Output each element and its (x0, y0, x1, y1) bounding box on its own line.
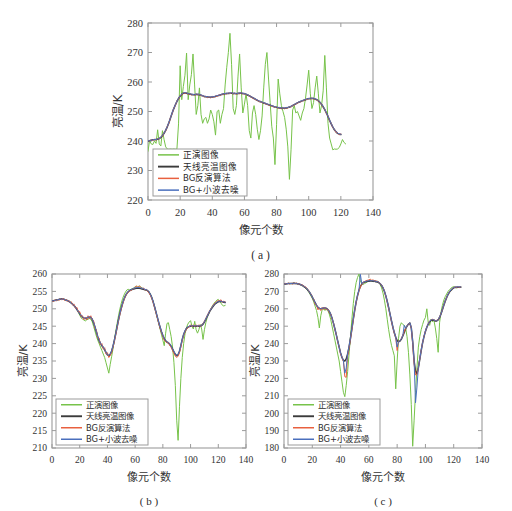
legend-label-bgwavelet: BG+小波去噪 (86, 434, 138, 444)
x-tick-label: 60 (130, 454, 140, 465)
y-tick-label: 180 (265, 442, 280, 453)
legend-label-bgwavelet: BG+小波去噪 (183, 184, 239, 195)
x-tick-label: 80 (271, 207, 282, 218)
y-tick-label: 230 (265, 355, 280, 366)
panel-caption: ( c ) (374, 495, 392, 508)
legend: 正演图像天线亮温图像BG反演算法BG+小波去噪 (153, 149, 247, 196)
y-axis-title: 亮温/K (111, 94, 125, 128)
chart-c: 0204060801001201401801902002102202302402… (248, 266, 498, 508)
legend-label-bg: BG反演算法 (183, 172, 231, 183)
x-tick-label: 40 (336, 454, 346, 465)
x-axis-title: 像元个数 (239, 223, 284, 237)
y-tick-label: 225 (33, 390, 48, 401)
y-tick-label: 250 (33, 303, 48, 314)
x-tick-label: 40 (207, 207, 218, 218)
x-tick-label: 20 (75, 454, 85, 465)
subplot-c: 0204060801001201401801902002102202302402… (248, 266, 498, 508)
x-tick-label: 140 (475, 454, 490, 465)
y-tick-label: 260 (33, 268, 48, 279)
chart-a: 020406080100120140220230240250260270280像… (108, 14, 400, 262)
series-line-bgwavelet (52, 288, 225, 356)
legend: 正演图像天线亮温图像BG反演算法BG+小波去噪 (288, 399, 380, 445)
x-tick-label: 40 (103, 454, 113, 465)
x-tick-label: 80 (158, 454, 168, 465)
legend-label-antenna: 天线亮温图像 (183, 161, 237, 172)
y-tick-label: 235 (33, 355, 48, 366)
series-line-antenna (52, 288, 225, 356)
legend: 正演图像天线亮温图像BG反演算法BG+小波去噪 (56, 399, 148, 445)
series-line-antenna (148, 93, 341, 141)
y-tick-label: 270 (265, 286, 280, 297)
x-tick-label: 20 (307, 454, 317, 465)
y-tick-label: 255 (33, 286, 48, 297)
y-tick-label: 250 (127, 106, 143, 117)
x-tick-label: 20 (175, 207, 186, 218)
panel-caption: ( a ) (251, 249, 270, 262)
x-axis-title: 像元个数 (127, 471, 171, 484)
y-tick-label: 240 (127, 136, 143, 147)
y-tick-label: 215 (33, 425, 48, 436)
y-axis-title: 亮温/K (248, 344, 262, 378)
subplot-a: 020406080100120140220230240250260270280像… (108, 14, 400, 262)
y-tick-label: 260 (127, 77, 143, 88)
x-tick-label: 60 (239, 207, 250, 218)
y-tick-label: 220 (127, 195, 143, 206)
legend-label-antenna: 天线亮温图像 (86, 411, 135, 421)
y-axis-title: 亮温/K (16, 344, 30, 378)
y-tick-label: 260 (265, 303, 280, 314)
series-line-bgwavelet (148, 93, 341, 141)
y-tick-label: 210 (33, 442, 48, 453)
y-tick-label: 210 (265, 390, 280, 401)
y-tick-label: 200 (265, 408, 280, 419)
x-tick-label: 0 (145, 207, 150, 218)
x-tick-label: 100 (301, 207, 317, 218)
y-tick-label: 280 (265, 268, 280, 279)
x-tick-label: 120 (447, 454, 462, 465)
legend-label-forward: 正演图像 (318, 400, 351, 410)
x-tick-label: 0 (282, 454, 287, 465)
legend-label-forward: 正演图像 (183, 149, 219, 160)
y-tick-label: 240 (33, 338, 48, 349)
y-tick-label: 190 (265, 425, 280, 436)
series-line-bgwavelet (284, 274, 461, 402)
subplot-b: 0204060801001201402102152202252302352402… (14, 266, 259, 508)
x-tick-label: 100 (418, 454, 433, 465)
x-tick-label: 60 (364, 454, 374, 465)
x-tick-label: 120 (333, 207, 349, 218)
y-tick-label: 220 (33, 408, 48, 419)
y-tick-label: 280 (127, 18, 143, 29)
x-tick-label: 0 (50, 454, 55, 465)
y-tick-label: 245 (33, 321, 48, 332)
y-tick-label: 220 (265, 373, 280, 384)
x-tick-label: 120 (211, 454, 226, 465)
legend-label-bg: BG反演算法 (318, 423, 362, 433)
y-tick-label: 230 (33, 373, 48, 384)
x-tick-label: 140 (365, 207, 381, 218)
legend-label-bg: BG反演算法 (86, 423, 130, 433)
x-tick-label: 80 (392, 454, 402, 465)
y-tick-label: 240 (265, 338, 280, 349)
y-tick-label: 230 (127, 165, 143, 176)
figure-container: 020406080100120140220230240250260270280像… (0, 0, 512, 511)
panel-caption: ( b ) (140, 495, 159, 508)
series-line-bg (52, 286, 225, 358)
y-tick-label: 250 (265, 321, 280, 332)
x-tick-label: 100 (183, 454, 198, 465)
legend-label-forward: 正演图像 (86, 400, 119, 410)
series-line-bg (148, 93, 341, 141)
x-axis-title: 像元个数 (361, 471, 405, 484)
y-tick-label: 270 (127, 47, 143, 58)
legend-label-antenna: 天线亮温图像 (318, 411, 367, 421)
legend-label-bgwavelet: BG+小波去噪 (318, 434, 370, 444)
series-line-antenna (284, 281, 461, 374)
chart-b: 0204060801001201402102152202252302352402… (14, 266, 259, 508)
